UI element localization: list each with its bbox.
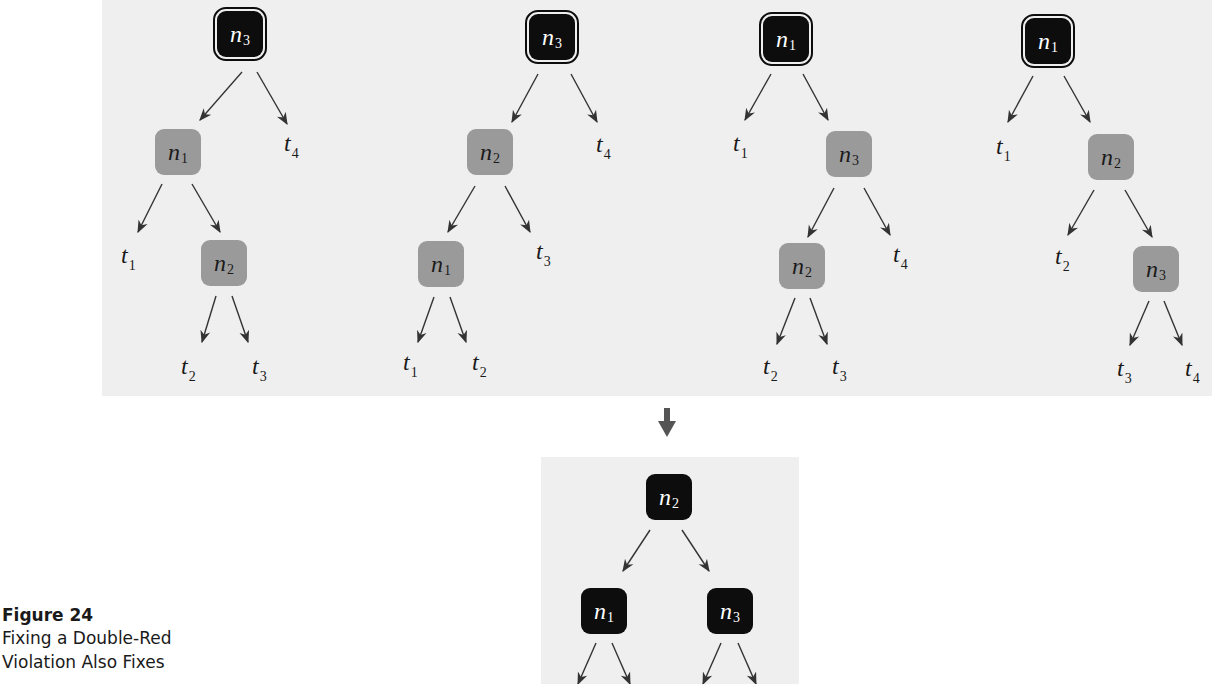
node-label: n	[594, 599, 606, 623]
node-label: t	[763, 353, 770, 379]
node-subscript: 1	[789, 38, 796, 54]
node-subscript: 1	[1051, 40, 1058, 56]
node-label: n	[720, 599, 732, 623]
node-label: n	[168, 140, 180, 164]
subtree-t2: t2	[181, 354, 196, 378]
node-label: t	[536, 238, 543, 264]
figure-number: Figure 24	[2, 604, 172, 626]
caption-line-1: Fixing a Double-Red	[2, 626, 172, 650]
node-label: t	[893, 241, 900, 267]
node-subscript: 4	[292, 146, 299, 161]
edge-arrow	[1068, 190, 1094, 235]
black-node-n1: n1	[1025, 18, 1071, 64]
node-subscript: 1	[444, 263, 451, 279]
node-subscript: 3	[544, 254, 551, 269]
node-label: t	[181, 353, 188, 379]
node-subscript: 2	[189, 369, 196, 384]
edge-arrow	[623, 530, 650, 571]
node-subscript: 2	[771, 369, 778, 384]
subtree-t4: t4	[893, 242, 908, 266]
red-node-n2: n2	[779, 243, 825, 289]
node-label: t	[472, 349, 479, 375]
black-node-n1: n1	[581, 588, 627, 634]
red-node-n2: n2	[1088, 134, 1134, 180]
node-label: n	[776, 27, 788, 51]
node-subscript: 3	[260, 369, 267, 384]
edge-arrow	[808, 188, 834, 237]
node-label: n	[1146, 257, 1158, 281]
edge-arrow	[745, 74, 771, 120]
edge-arrow	[1125, 190, 1152, 237]
node-label: n	[542, 25, 554, 49]
edge-arrow	[512, 74, 538, 122]
subtree-t3: t3	[1117, 356, 1132, 380]
red-node-n3: n3	[826, 131, 872, 177]
edge-arrow	[578, 643, 596, 684]
node-subscript: 3	[243, 33, 250, 49]
edge-arrow	[505, 186, 530, 232]
caption-line-2: Violation Also Fixes	[2, 650, 172, 674]
transition-arrow-icon	[657, 408, 677, 442]
node-label: n	[431, 252, 443, 276]
node-subscript: 4	[604, 147, 611, 162]
edge-arrow	[738, 643, 756, 684]
node-subscript: 3	[852, 153, 859, 169]
edge-arrow	[1130, 301, 1149, 345]
edge-arrow	[682, 530, 709, 571]
subtree-t2: t2	[472, 350, 487, 374]
node-subscript: 3	[1159, 268, 1166, 284]
node-label: t	[1117, 355, 1124, 381]
node-label: n	[839, 142, 851, 166]
red-node-n2: n2	[201, 240, 247, 286]
edge-arrow	[864, 188, 890, 235]
edge-arrow	[810, 298, 827, 344]
subtree-t1: t1	[996, 134, 1011, 158]
node-subscript: 1	[129, 258, 136, 273]
edge-arrow	[200, 72, 242, 120]
node-subscript: 2	[480, 365, 487, 380]
node-subscript: 2	[1114, 156, 1121, 172]
node-subscript: 3	[1125, 371, 1132, 386]
edge-arrow	[612, 643, 630, 684]
edge-arrow	[192, 184, 220, 232]
node-subscript: 2	[227, 262, 234, 278]
edge-arrow	[1008, 76, 1033, 122]
node-subscript: 2	[493, 151, 500, 167]
subtree-t3: t3	[252, 354, 267, 378]
edge-arrow	[1164, 301, 1182, 345]
node-subscript: 1	[411, 365, 418, 380]
node-label: t	[403, 349, 410, 375]
edge-arrow	[571, 74, 597, 122]
black-node-n3: n3	[529, 14, 575, 60]
subtree-t4: t4	[596, 132, 611, 156]
subtree-t1: t1	[403, 350, 418, 374]
figure-caption: Figure 24 Fixing a Double-Red Violation …	[2, 604, 172, 674]
red-node-n3: n3	[1133, 246, 1179, 292]
node-subscript: 1	[607, 610, 614, 626]
node-label: n	[1101, 145, 1113, 169]
node-label: t	[596, 131, 603, 157]
node-subscript: 4	[901, 257, 908, 272]
node-label: t	[284, 130, 291, 156]
edge-arrow	[138, 184, 162, 232]
edge-arrow	[450, 297, 466, 342]
edge-arrow	[448, 186, 475, 232]
subtree-t4: t4	[284, 131, 299, 155]
edge-arrow	[232, 296, 248, 342]
subtree-t2: t2	[1055, 244, 1070, 268]
subtree-t1: t1	[121, 243, 136, 267]
subtree-t3: t3	[832, 354, 847, 378]
node-subscript: 2	[805, 265, 812, 281]
edge-arrow	[257, 72, 287, 124]
black-node-n1: n1	[763, 16, 809, 62]
black-node-n3: n3	[217, 11, 263, 57]
subtree-t1: t1	[733, 131, 748, 155]
edge-arrow	[777, 298, 795, 344]
node-label: t	[1055, 243, 1062, 269]
node-label: n	[230, 22, 242, 46]
red-node-n1: n1	[418, 241, 464, 287]
node-subscript: 4	[1193, 371, 1200, 386]
node-subscript: 2	[672, 496, 679, 512]
subtree-t2: t2	[763, 354, 778, 378]
node-label: n	[480, 140, 492, 164]
